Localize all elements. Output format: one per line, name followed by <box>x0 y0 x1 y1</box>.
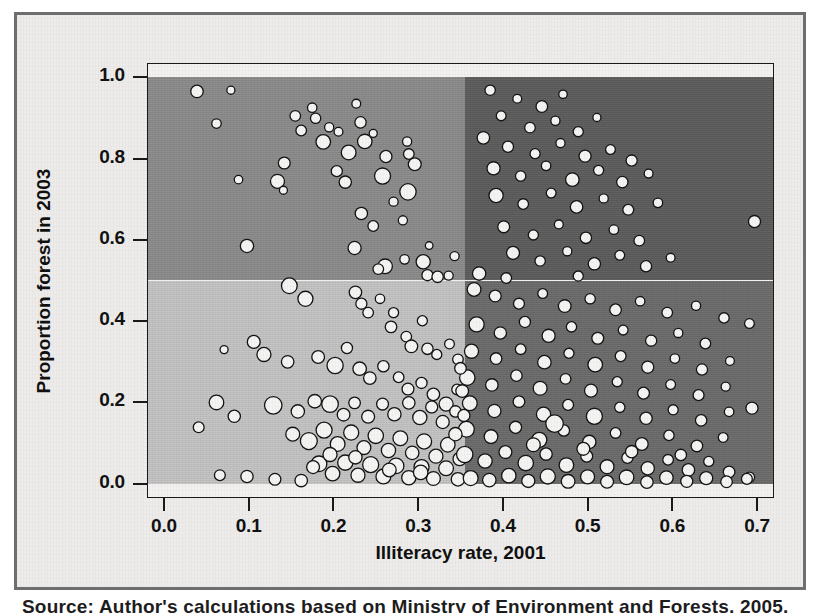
scatter-point <box>518 455 533 470</box>
scatter-point <box>247 335 260 348</box>
scatter-point <box>375 294 384 303</box>
scatter-point <box>700 472 713 485</box>
scatter-point <box>535 256 545 266</box>
scatter-point <box>556 139 565 148</box>
scatter-point <box>530 149 540 159</box>
scatter-point <box>478 454 492 468</box>
scatter-point <box>449 428 462 441</box>
scatter-point <box>490 353 502 365</box>
scatter-point <box>610 304 622 316</box>
scatter-point <box>691 440 703 452</box>
y-tick <box>133 76 147 78</box>
scatter-point <box>700 338 711 349</box>
scatter-bubbles <box>147 63 774 498</box>
scatter-point <box>615 250 625 260</box>
chart-panel: 0.00.20.40.60.81.0 0.00.10.20.30.40.50.6… <box>14 12 806 590</box>
scatter-point <box>363 457 379 473</box>
scatter-point <box>558 300 571 313</box>
scatter-point <box>559 458 574 473</box>
scatter-point <box>464 344 478 358</box>
x-tick <box>502 498 504 511</box>
scatter-point <box>344 425 359 440</box>
scatter-point <box>489 188 503 202</box>
x-tick <box>756 498 758 511</box>
scatter-point <box>432 349 442 359</box>
scatter-point <box>566 173 579 186</box>
scatter-point <box>626 155 637 166</box>
scatter-point <box>693 390 704 401</box>
scatter-point <box>193 422 204 433</box>
scatter-point <box>599 194 608 203</box>
figure-container: 0.00.20.40.60.81.0 0.00.10.20.30.40.50.6… <box>0 0 820 613</box>
scatter-point <box>561 474 575 488</box>
scatter-point <box>675 449 686 460</box>
scatter-point <box>389 197 398 206</box>
scatter-point <box>644 169 653 178</box>
scatter-point <box>560 374 571 385</box>
scatter-point <box>601 475 614 488</box>
scatter-point <box>664 430 674 440</box>
scatter-point <box>515 171 525 181</box>
scatter-point <box>588 357 603 372</box>
scatter-point <box>519 316 530 327</box>
scatter-point <box>214 470 225 481</box>
scatter-point <box>585 294 595 304</box>
scatter-point <box>563 247 572 256</box>
scatter-point <box>234 175 242 183</box>
y-tick-label: 0.8 <box>61 146 125 168</box>
x-tick-label: 0.7 <box>727 515 787 537</box>
scatter-point <box>308 395 321 408</box>
scatter-point <box>323 447 337 461</box>
scatter-point <box>581 470 595 484</box>
x-tick <box>587 498 589 511</box>
scatter-point <box>487 162 500 175</box>
scatter-point <box>477 132 489 144</box>
scatter-point <box>316 135 331 150</box>
scatter-point <box>513 94 522 103</box>
scatter-point <box>405 340 418 353</box>
scatter-point <box>393 431 408 446</box>
scatter-point <box>674 328 683 337</box>
scatter-point <box>353 362 366 375</box>
y-tick <box>133 320 147 322</box>
scatter-point <box>538 289 548 299</box>
scatter-point <box>425 242 433 250</box>
scatter-point <box>416 255 430 269</box>
scatter-point <box>610 428 621 439</box>
scatter-point <box>526 438 540 452</box>
scatter-point <box>457 446 473 462</box>
scatter-point <box>663 454 674 465</box>
scatter-point <box>638 387 650 399</box>
scatter-point <box>541 161 550 170</box>
scatter-point <box>653 198 662 207</box>
scatter-point <box>719 313 729 323</box>
scatter-point <box>378 361 389 372</box>
y-tick-label: 0.0 <box>61 471 125 493</box>
scatter-point <box>295 474 307 486</box>
scatter-point <box>546 415 563 432</box>
scatter-point <box>355 117 366 128</box>
scatter-point <box>618 325 628 335</box>
scatter-point <box>748 216 760 228</box>
scatter-point <box>540 448 552 460</box>
scatter-point <box>746 402 758 414</box>
scatter-point <box>413 410 427 424</box>
scatter-point <box>458 409 470 421</box>
scatter-point <box>522 474 535 487</box>
scatter-point <box>368 428 383 443</box>
scatter-point <box>402 383 414 395</box>
scatter-point <box>540 469 555 484</box>
scatter-point <box>483 473 496 486</box>
scatter-point <box>745 319 755 329</box>
scatter-point <box>278 157 290 169</box>
scatter-point <box>510 421 522 433</box>
scatter-point <box>634 235 645 246</box>
scatter-point <box>536 101 548 113</box>
x-tick-label: 0.6 <box>642 515 702 537</box>
scatter-point <box>191 85 203 97</box>
scatter-point <box>375 168 391 184</box>
scatter-point <box>380 150 392 162</box>
scatter-point <box>427 388 439 400</box>
scatter-point <box>484 430 498 444</box>
scatter-point <box>341 342 352 353</box>
